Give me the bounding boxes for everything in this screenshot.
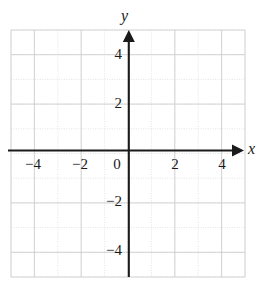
y-axis-arrow-head-icon [123,30,135,42]
y-tick-label-neg2: −2 [92,194,122,209]
x-axis-arrow-head-icon [232,145,244,157]
coordinate-plane-figure: x y 0 −4 −2 2 4 4 2 −2 −4 [0,0,268,287]
x-tick-label-pos2: 2 [166,157,184,172]
x-tick-label-neg4: −4 [18,157,48,172]
origin-tick-label: 0 [108,157,126,172]
y-tick-label-neg4: −4 [92,243,122,258]
y-axis-label: y [121,8,128,24]
x-axis [8,145,244,157]
x-axis-label: x [248,141,255,157]
y-tick-label-pos2: 2 [104,96,122,111]
cartesian-grid-graph [0,0,268,287]
x-tick-label-pos4: 4 [213,157,231,172]
x-tick-label-neg2: −2 [65,157,95,172]
y-tick-label-pos4: 4 [104,47,122,62]
